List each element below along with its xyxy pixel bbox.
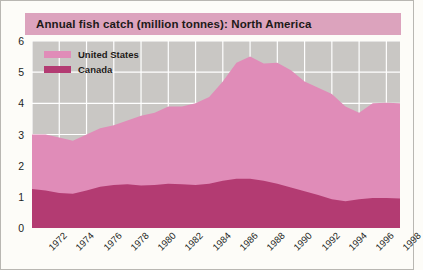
legend-swatch-icon <box>44 66 71 73</box>
legend-swatch-icon <box>44 51 71 58</box>
x-axis-tick-label: 1988 <box>264 230 287 253</box>
y-axis-tick-label: 1 <box>18 191 24 203</box>
x-axis-tick-label: 1992 <box>319 230 342 253</box>
legend-item-label: Canada <box>78 64 112 75</box>
y-axis-tick-label: 2 <box>18 160 24 172</box>
x-axis-tick-label: 1978 <box>128 230 151 253</box>
x-axis-tick-label: 1976 <box>101 230 124 253</box>
legend-item: United States <box>44 49 139 60</box>
x-axis-tick-label: 1982 <box>182 230 205 253</box>
data-areas <box>32 57 400 228</box>
x-axis-tick-label: 1994 <box>346 230 369 253</box>
x-axis-tick-label: 1998 <box>401 230 423 253</box>
x-axis-tick-label: 1974 <box>73 230 96 253</box>
y-axis-tick-label: 3 <box>18 129 24 141</box>
legend-item: Canada <box>44 64 139 75</box>
chart-legend: United StatesCanada <box>44 49 139 75</box>
y-axis-tick-label: 0 <box>18 222 24 234</box>
y-axis-tick-label: 5 <box>18 66 24 78</box>
chart-title-bar: Annual fish catch (million tonnes): Nort… <box>25 13 401 35</box>
y-axis-tick-label: 4 <box>18 97 24 109</box>
legend-item-label: United States <box>78 49 139 60</box>
x-axis-tick-label: 1990 <box>292 230 315 253</box>
x-axis-tick-label: 1996 <box>373 230 396 253</box>
y-axis-tick-label: 6 <box>18 35 24 47</box>
x-axis-tick-label: 1986 <box>237 230 260 253</box>
x-axis-tick-label: 1980 <box>155 230 178 253</box>
x-axis-tick-label: 1984 <box>210 230 233 253</box>
y-axis: 0123456 <box>1 41 28 228</box>
x-axis: 1972197419761978198019821984198619881990… <box>32 230 400 270</box>
page-title: Annual fish catch (million tonnes): Nort… <box>36 18 311 30</box>
x-axis-tick-label: 1972 <box>46 230 69 253</box>
